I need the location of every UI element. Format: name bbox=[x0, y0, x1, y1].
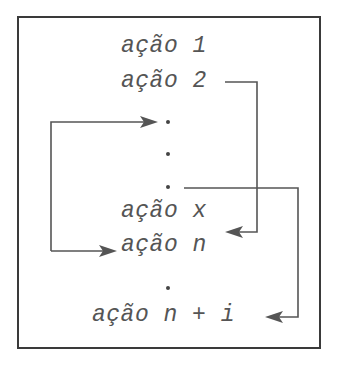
action-n-plus-i-label: ação n + i bbox=[92, 304, 235, 327]
action-2-label: ação 2 bbox=[121, 70, 207, 93]
ellipsis-dot-2 bbox=[166, 152, 170, 156]
ellipsis-dot-1 bbox=[166, 120, 170, 124]
action-1-label: ação 1 bbox=[121, 35, 207, 58]
ellipsis-dot-3 bbox=[166, 185, 170, 189]
action-x-label: ação x bbox=[121, 200, 207, 223]
action-n-label: ação n bbox=[121, 234, 207, 257]
ellipsis-dot-4 bbox=[166, 286, 170, 290]
diagram-frame bbox=[17, 16, 321, 349]
